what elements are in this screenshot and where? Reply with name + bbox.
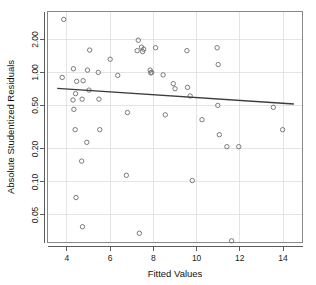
y-axis: 2.001.000.500.200.100.05: [30, 12, 45, 243]
data-point: [136, 38, 140, 42]
data-point: [185, 85, 189, 89]
data-point: [81, 79, 85, 83]
data-point: [73, 127, 77, 131]
data-point: [153, 46, 157, 50]
data-point: [116, 73, 120, 77]
data-point: [237, 144, 241, 148]
y-tick-label: 0.20: [30, 140, 40, 157]
data-point: [200, 118, 204, 122]
data-point: [80, 225, 84, 229]
grid-lines: [48, 12, 303, 243]
x-tick-label: 8: [151, 253, 156, 263]
data-point: [124, 173, 128, 177]
chart-canvas: 2.001.000.500.200.100.05 468101214 Fitte…: [0, 0, 316, 285]
y-tick-label: 2.00: [30, 31, 40, 48]
x-tick-label: 10: [192, 253, 202, 263]
x-tick-label: 6: [108, 253, 113, 263]
data-point: [72, 107, 76, 111]
data-point: [163, 113, 167, 117]
data-point: [161, 73, 165, 77]
data-point: [74, 79, 78, 83]
data-point: [215, 46, 219, 50]
data-point: [271, 105, 275, 109]
data-point: [185, 48, 189, 52]
y-tick-label: 1.00: [30, 64, 40, 81]
data-point: [137, 231, 141, 235]
data-point: [217, 133, 221, 137]
data-point: [79, 159, 83, 163]
data-point: [98, 127, 102, 131]
data-point: [173, 87, 177, 91]
x-axis-ticks: 468101214: [65, 247, 288, 264]
data-point: [71, 98, 75, 102]
data-point: [80, 97, 84, 101]
scale-location-plot: 2.001.000.500.200.100.05 468101214 Fitte…: [0, 0, 316, 285]
data-point: [62, 17, 66, 21]
x-axis: 468101214: [48, 247, 303, 264]
data-point: [87, 48, 91, 52]
x-tick-label: 4: [65, 253, 70, 263]
data-point: [225, 144, 229, 148]
y-axis-title: Absolute Studentized Residuals: [5, 60, 16, 194]
data-points: [60, 17, 285, 243]
data-point: [135, 48, 139, 52]
data-point: [85, 140, 89, 144]
data-point: [74, 195, 78, 199]
data-point: [216, 62, 220, 66]
data-point: [71, 67, 75, 71]
y-tick-label: 0.05: [30, 206, 40, 223]
y-tick-label: 0.10: [30, 173, 40, 190]
data-point: [125, 110, 129, 114]
plot-frame: [48, 12, 303, 243]
data-point: [60, 75, 64, 79]
data-point: [85, 68, 89, 72]
x-tick-label: 12: [235, 253, 245, 263]
x-tick-label: 14: [278, 253, 288, 263]
y-tick-label: 0.50: [30, 97, 40, 114]
data-point: [280, 127, 284, 131]
data-point: [73, 91, 77, 95]
x-axis-title: Fitted Values: [148, 268, 203, 279]
data-point: [171, 81, 175, 85]
data-point: [97, 97, 101, 101]
y-axis-ticks: 2.001.000.500.200.100.05: [30, 31, 45, 223]
